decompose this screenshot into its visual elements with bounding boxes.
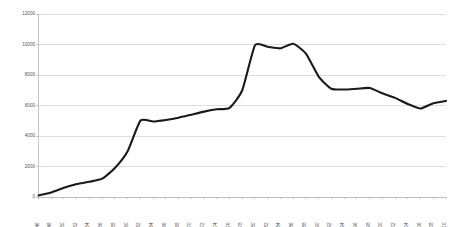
x-axis-tick-label: 1956 — [98, 222, 103, 227]
x-axis-tick-label: 2010 — [442, 222, 447, 227]
gridlines — [39, 14, 447, 197]
x-axis-tick-label: 1992 — [327, 222, 332, 227]
x-axis-tick-label: 1978 — [238, 222, 243, 227]
y-axis-tick-label: 0 — [32, 194, 35, 199]
y-axis-tick-labels: 020004000600080001000012000 — [22, 11, 38, 199]
x-axis-tick-label: 1964 — [149, 222, 154, 227]
y-axis-tick-label: 10000 — [22, 42, 35, 47]
x-axis-tick-label: 1954 — [85, 222, 90, 227]
data-series-line — [39, 44, 447, 196]
x-axis-tick-label: 1980 — [251, 222, 256, 227]
x-axis-tick-label: 1972 — [200, 222, 205, 227]
x-axis-tick-label: 2000 — [378, 222, 383, 227]
y-axis-tick-label: 4000 — [25, 133, 36, 138]
x-axis-tick-label: 1960 — [124, 222, 129, 227]
x-axis-tick-label: 1990 — [315, 222, 320, 227]
x-axis-tick-label: 1958 — [111, 222, 116, 227]
x-axis-tick-label: 1946 — [35, 222, 40, 227]
x-axis-tick-label: 1948 — [47, 222, 52, 227]
x-axis-tick-label: 1950 — [60, 222, 65, 227]
chart-canvas: 020004000600080001000012000 194619481950… — [0, 0, 456, 227]
x-axis-tick-label: 2004 — [404, 222, 409, 227]
x-axis-tick-label: 1994 — [340, 222, 345, 227]
y-axis-tick-label: 6000 — [25, 103, 36, 108]
x-axis-tick-label: 1984 — [276, 222, 281, 227]
x-axis-tick-label: 1998 — [366, 222, 371, 227]
x-axis-tick-label: 1996 — [353, 222, 358, 227]
x-axis-tick-label: 1962 — [136, 222, 141, 227]
x-axis-tick-label: 1966 — [162, 222, 167, 227]
x-axis-tick-label: 1988 — [302, 222, 307, 227]
x-axis-tick-label: 1982 — [264, 222, 269, 227]
x-axis-tick-label: 1976 — [226, 222, 231, 227]
line-chart: 020004000600080001000012000 194619481950… — [0, 0, 456, 227]
x-axis-tick-label: 2006 — [417, 222, 422, 227]
x-axis-tick-label: 1952 — [73, 222, 78, 227]
x-axis-tick-label: 1974 — [213, 222, 218, 227]
y-axis-tick-label: 8000 — [25, 72, 36, 77]
y-axis-tick-label: 2000 — [25, 164, 36, 169]
x-axis-tick-label: 2002 — [391, 222, 396, 227]
x-axis-tick-label: 1986 — [289, 222, 294, 227]
x-axis-tick-label: 2008 — [429, 222, 434, 227]
x-axis-tick-label: 1968 — [175, 222, 180, 227]
y-axis-tick-label: 12000 — [22, 11, 35, 16]
x-axis-tick-label: 1970 — [187, 222, 192, 227]
x-axis-tick-labels: 1946194819501952195419561958196019621964… — [35, 222, 448, 227]
